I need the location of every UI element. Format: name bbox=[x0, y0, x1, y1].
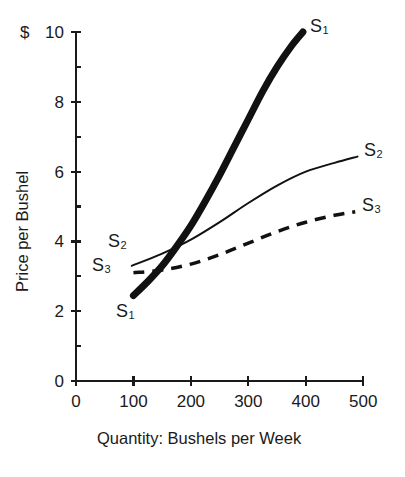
s1-lower-label: S1 bbox=[116, 302, 134, 322]
y-tick-label: 6 bbox=[34, 164, 64, 181]
curve-s2 bbox=[132, 157, 358, 266]
x-axis-title: Quantity: Bushels per Week bbox=[97, 430, 301, 447]
curve-label-subscript: 2 bbox=[377, 148, 383, 160]
x-tick-label: 300 bbox=[226, 393, 270, 410]
y-tick-label: 4 bbox=[34, 233, 64, 250]
curve-label-subscript: 1 bbox=[323, 24, 329, 36]
curve-label-subscript: 3 bbox=[375, 203, 381, 215]
curve-label-base: S bbox=[364, 140, 376, 160]
curve-label-base: S bbox=[92, 255, 104, 275]
x-tick-label: 200 bbox=[169, 393, 213, 410]
s2-right-label: S2 bbox=[364, 141, 382, 161]
y-tick-label: 8 bbox=[34, 94, 64, 111]
curve-label-subscript: 1 bbox=[129, 309, 135, 321]
curve-label-subscript: 3 bbox=[105, 263, 111, 275]
curve-label-subscript: 2 bbox=[121, 239, 127, 251]
axis-lines bbox=[76, 32, 362, 381]
x-tick-label: 500 bbox=[341, 393, 385, 410]
x-tick-label: 100 bbox=[111, 393, 155, 410]
y-tick-label: 2 bbox=[34, 303, 64, 320]
curve-label-base: S bbox=[116, 301, 128, 321]
s1-upper-label: S1 bbox=[310, 17, 328, 37]
curve-label-base: S bbox=[362, 195, 374, 215]
x-tick-label: 0 bbox=[54, 393, 98, 410]
curve-label-base: S bbox=[108, 231, 120, 251]
currency-symbol: $ bbox=[20, 24, 29, 41]
y-tick-label: 10 bbox=[34, 24, 64, 41]
supply-curve-chart: $ Price per Bushel Quantity: Bushels per… bbox=[0, 0, 405, 477]
s3-left-label: S3 bbox=[92, 256, 110, 276]
s3-right-label: S3 bbox=[362, 196, 380, 216]
s2-left-label: S2 bbox=[108, 232, 126, 252]
x-tick-label: 400 bbox=[284, 393, 328, 410]
series-curves bbox=[132, 32, 358, 296]
y-tick-label: 0 bbox=[34, 373, 64, 390]
y-axis-title: Price per Bushel bbox=[14, 171, 31, 292]
curve-label-base: S bbox=[310, 16, 322, 36]
